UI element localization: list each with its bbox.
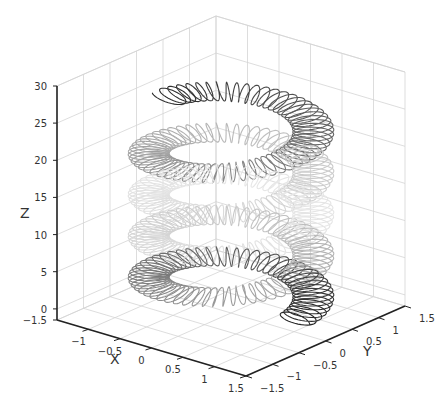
spring-segment: [260, 89, 289, 110]
z-tick-label: 0: [41, 304, 47, 315]
y-axis-label: Y: [362, 343, 372, 359]
x-tick-mark: [146, 348, 152, 350]
axes-grid: [57, 16, 405, 376]
x-tick-label: 1.5: [228, 383, 244, 394]
y-tick-label: 1: [393, 325, 399, 336]
x-tick-label: 0: [138, 355, 144, 366]
z-tick-label: −1.5: [23, 315, 47, 326]
z-axis-label: Z: [20, 205, 30, 221]
y-tick-mark: [246, 376, 252, 378]
figure: −1.5051015202530−1−0.500.511.5−1.5−1−0.5…: [0, 0, 448, 400]
y-tick-label: −1: [287, 371, 302, 382]
spring-segment: [221, 82, 239, 101]
spring-segment: [232, 248, 250, 267]
z-tick-label: 5: [41, 267, 47, 278]
x-tick-mark: [83, 329, 89, 331]
y-tick-mark: [299, 353, 305, 355]
x-tick-mark: [240, 376, 246, 378]
z-tick-label: 15: [34, 192, 47, 203]
axes-lines: [53, 86, 411, 378]
x-tick-label: 1: [201, 374, 207, 385]
tick-labels: −1.5051015202530−1−0.500.511.5−1.5−1−0.5…: [23, 81, 435, 394]
spring-segment: [257, 130, 279, 149]
z-tick-label: 25: [34, 118, 47, 129]
spring-segment: [232, 124, 250, 144]
spring-segment: [222, 287, 236, 306]
x-tick-mark: [209, 367, 215, 369]
x-tick-label: −1: [71, 336, 86, 347]
z-tick-label: 30: [34, 81, 47, 92]
y-tick-label: −1.5: [260, 383, 284, 394]
z-tick-label: 10: [34, 230, 47, 241]
x-tick-mark: [114, 339, 120, 341]
x-tick-mark: [177, 357, 183, 359]
x-axis-label: X: [110, 351, 120, 367]
x-tick-label: 0.5: [165, 364, 181, 375]
y-tick-label: 1.5: [419, 313, 435, 324]
y-tick-label: −0.5: [313, 360, 337, 371]
y-tick-label: 0: [340, 348, 346, 359]
y-tick-mark: [405, 306, 411, 308]
spring-segment: [216, 123, 231, 143]
spring-curve: [128, 82, 334, 325]
y-tick-mark: [326, 341, 332, 343]
3d-plot: −1.5051015202530−1−0.500.511.5−1.5−1−0.5…: [0, 0, 448, 400]
y-tick-mark: [273, 364, 279, 366]
y-tick-mark: [379, 318, 385, 320]
z-tick-label: 20: [34, 155, 47, 166]
y-tick-mark: [352, 329, 358, 331]
